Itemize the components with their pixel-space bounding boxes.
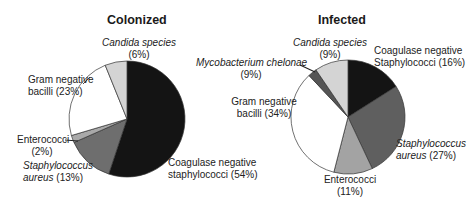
colonized-candida-name: Candida species [94,37,184,49]
colonized-saureus-pct: (13%) [54,172,83,183]
infected-cons-line2: Staphylococci (16%) [374,57,465,69]
infected-gnb-line1: Gram negative [228,96,300,108]
infected-cons-line1: Coagulase negative [374,45,465,57]
colonized-cons-label: Coagulase negative staphylococci (54%) [168,157,257,181]
colonized-gnb-line1: Gram negative [28,74,94,86]
colonized-saureus-name2: aureus [23,172,54,183]
infected-saureus-name1: Staphylococcus [396,138,466,150]
colonized-saureus-name1: Staphylococcus [23,160,93,172]
infected-saureus-name2: aureus [396,150,427,161]
colonized-enterococci-label: Enterococci (2%) [17,134,67,158]
infected-pie [291,60,405,174]
infected-saureus-pct: (27%) [427,150,456,161]
colonized-candida-pct: (6%) [94,49,184,61]
infected-title: Infected [318,13,366,27]
colonized-candida-label: Candida species (6%) [94,37,184,61]
infected-gnb-label: Gram negative bacilli (34%) [228,96,300,120]
infected-cons-label: Coagulase negative Staphylococci (16%) [374,45,465,69]
infected-myco-pct: (9%) [196,69,306,81]
infected-candida-name: Candida species [290,37,370,49]
colonized-enterococci-name: Enterococci [17,134,67,146]
infected-myco-label: Mycobacterium chelonae (9%) [196,57,306,81]
colonized-cons-line1: Coagulase negative [168,157,257,169]
colonized-title: Colonized [107,13,167,27]
infected-enterococci-label: Enterococci (11%) [320,174,380,198]
infected-gnb-line2: bacilli (34%) [228,108,300,120]
colonized-gnb-line2: bacilli (23%) [28,86,94,98]
infected-enterococci-pct: (11%) [320,186,380,198]
infected-enterococci-name: Enterococci [320,174,380,186]
colonized-enterococci-pct: (2%) [17,146,67,158]
infected-saureus-label: Staphylococcus aureus (27%) [396,138,466,162]
colonized-saureus-label: Staphylococcus aureus (13%) [23,160,93,184]
infected-myco-name: Mycobacterium chelonae [196,57,306,69]
colonized-gnb-label: Gram negative bacilli (23%) [28,74,94,98]
colonized-cons-line2: staphylococci (54%) [168,169,257,181]
